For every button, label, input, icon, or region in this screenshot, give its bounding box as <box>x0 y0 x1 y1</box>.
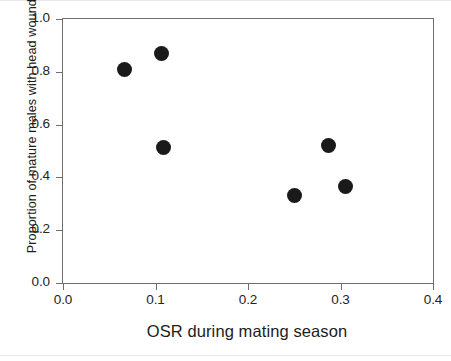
x-tick-mark <box>341 283 342 290</box>
data-point <box>338 179 353 194</box>
y-tick-label: 0.0 <box>10 274 50 289</box>
scan-edge-bottom <box>0 355 451 356</box>
x-tick-mark <box>433 283 434 290</box>
plot-area: 0.00.20.40.60.81.0 0.00.10.20.30.4 <box>62 18 434 284</box>
y-tick-mark <box>56 230 63 231</box>
y-tick-mark <box>56 125 63 126</box>
data-point <box>321 138 336 153</box>
x-tick-label: 0.4 <box>403 292 451 307</box>
x-tick-mark <box>63 283 64 290</box>
x-tick-mark <box>156 283 157 290</box>
y-tick-mark <box>56 177 63 178</box>
data-point <box>154 46 169 61</box>
x-tick-label: 0.2 <box>218 292 278 307</box>
y-axis-title: Proportion of mature males with head wou… <box>25 0 39 273</box>
data-point <box>287 188 302 203</box>
x-tick-label: 0.0 <box>33 292 93 307</box>
data-point <box>156 140 171 155</box>
x-tick-mark <box>248 283 249 290</box>
y-tick-mark <box>56 19 63 20</box>
scan-edge-top <box>0 0 451 1</box>
data-point <box>117 62 132 77</box>
y-tick-mark <box>56 72 63 73</box>
scatter-plot-figure: 0.00.20.40.60.81.0 0.00.10.20.30.4 OSR d… <box>0 0 451 361</box>
x-axis-title: OSR during mating season <box>62 322 432 341</box>
y-tick-mark <box>56 283 63 284</box>
x-tick-label: 0.1 <box>126 292 186 307</box>
x-tick-label: 0.3 <box>311 292 371 307</box>
